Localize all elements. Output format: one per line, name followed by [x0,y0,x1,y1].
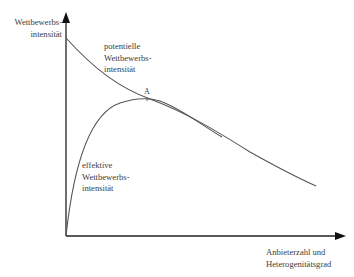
potential-curve-label: potentielle Wettbewerbs- intensität [104,41,152,76]
y-axis-label-line1: Wettbewerbs- [4,17,62,29]
potential-label-line2: Wettbewerbs- [104,53,152,65]
effective-label-line2: Wettbewerbs- [82,172,130,184]
x-axis-label-line1: Anbieterzahl und [266,247,331,259]
point-a-label: A [144,87,150,96]
potential-label-line3: intensität [104,64,152,76]
x-axis-arrow-icon [335,232,346,240]
effective-label-line3: intensität [82,183,130,195]
y-axis-label-line2: intensität [4,29,62,41]
effective-label-line1: effektive [82,160,130,172]
potential-label-line1: potentielle [104,41,152,53]
y-axis-arrow-icon [62,12,70,23]
effective-curve-label: effektive Wettbewerbs- intensität [82,160,130,195]
x-axis-label: Anbieterzahl und Heterogenitätsgrad [266,247,331,270]
y-axis-label: Wettbewerbs- intensität [4,17,62,40]
x-axis-label-line2: Heterogenitätsgrad [266,259,331,271]
diagram-canvas [0,0,354,277]
